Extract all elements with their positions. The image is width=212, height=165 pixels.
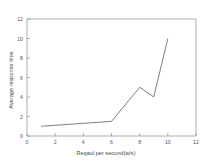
x-tick-label-12: 12 — [193, 139, 199, 145]
line-chart-plot — [0, 0, 212, 165]
x-axis-title: Reqaul per second(w/s) — [0, 150, 212, 156]
y-tick-label-12: 12 — [8, 16, 23, 22]
x-tick-label-4: 4 — [82, 139, 85, 145]
y-tick-label-0: 0 — [8, 133, 23, 139]
plot-area-background — [27, 19, 196, 136]
y-axis-title: Average response time — [8, 38, 14, 122]
chart-figure: 0 2 4 6 8 10 12 0 2 4 6 8 10 12 Reqaul p… — [0, 0, 212, 165]
x-tick-label-8: 8 — [138, 139, 141, 145]
x-tick-label-6: 6 — [110, 139, 113, 145]
x-tick-label-0: 0 — [26, 139, 29, 145]
x-tick-label-2: 2 — [54, 139, 57, 145]
x-tick-label-10: 10 — [165, 139, 171, 145]
